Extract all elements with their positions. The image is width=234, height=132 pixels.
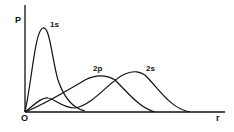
y-axis-label: P [15, 16, 21, 25]
curve-label-2s: 2s [146, 65, 155, 73]
radial-probability-plot [0, 0, 234, 132]
origin-label: O [21, 114, 28, 123]
x-axis-label: r [216, 114, 220, 123]
curve-1s [25, 28, 85, 112]
curve-2s [25, 72, 190, 112]
curve-2p [25, 76, 155, 112]
curve-label-2p: 2p [93, 65, 102, 73]
curve-label-1s: 1s [50, 21, 59, 29]
